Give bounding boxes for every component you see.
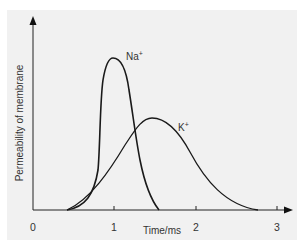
x-tick-label-0: 0 bbox=[30, 221, 36, 233]
chart-plot bbox=[0, 0, 307, 246]
x-tick-label-2: 2 bbox=[193, 221, 199, 233]
k-curve-label: K+ bbox=[178, 121, 189, 133]
x-axis-label: Time/ms bbox=[143, 225, 181, 236]
x-axis-arrow-icon bbox=[284, 207, 293, 214]
na-curve bbox=[67, 58, 159, 210]
x-tick-label-3: 3 bbox=[274, 221, 280, 233]
na-curve-label: Na+ bbox=[126, 50, 143, 62]
k-curve bbox=[67, 118, 258, 210]
y-axis-arrow-icon bbox=[30, 16, 37, 25]
y-axis-label: Permeability of membrane bbox=[14, 65, 25, 182]
x-tick-label-1: 1 bbox=[111, 221, 117, 233]
axes bbox=[33, 22, 286, 210]
